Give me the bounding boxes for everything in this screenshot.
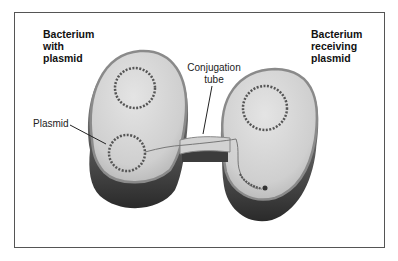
donor-label-line3: plasmid — [43, 52, 94, 64]
donor-bacterium — [88, 51, 188, 208]
tube-label-line2: tube — [186, 74, 242, 86]
donor-label: Bacterium with plasmid — [43, 28, 94, 64]
tube-leader-line — [203, 86, 212, 134]
donor-label-line1: Bacterium — [43, 28, 94, 40]
plasmid-label: Plasmid — [33, 118, 69, 130]
tube-label-line1: Conjugation — [186, 62, 242, 74]
recipient-label-line1: Bacterium — [311, 28, 362, 40]
recipient-label-line2: receiving — [311, 40, 362, 52]
recipient-bacterium — [221, 69, 319, 221]
recipient-label: Bacterium receiving plasmid — [311, 28, 362, 64]
donor-label-line2: with — [43, 40, 94, 52]
conjugation-tube-label: Conjugation tube — [186, 62, 242, 86]
recipient-label-line3: plasmid — [311, 52, 362, 64]
dna-end-marker — [263, 186, 268, 191]
